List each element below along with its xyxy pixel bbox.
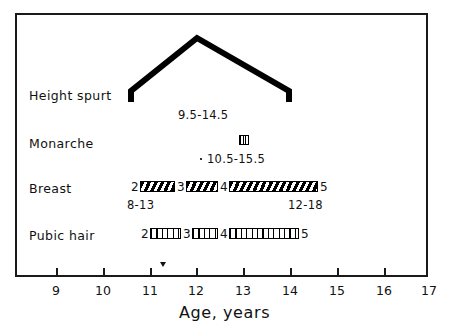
breast-stage-4-label: 4 — [220, 180, 228, 194]
tick-label-11: 11 — [142, 283, 158, 298]
height-spurt-range-text: 9.5-14.5 — [178, 108, 228, 122]
tick-mark-13 — [243, 268, 245, 276]
row-label-breast: Breast — [29, 181, 72, 196]
menarche-marker — [239, 135, 249, 145]
monarche-range-text: 10.5-15.5 — [207, 152, 265, 166]
menarche-range-tick — [200, 158, 202, 160]
axis-pointer-marker — [160, 262, 166, 267]
tick-label-15: 15 — [329, 283, 345, 298]
breast-bar-stage-4-5 — [229, 181, 318, 192]
pubic-hair-stage-2-label: 2 — [141, 227, 149, 241]
tick-label-17: 17 — [421, 283, 437, 298]
breast-left-range-text: 8-13 — [127, 198, 154, 212]
pubic-hair-stage-3-label: 3 — [183, 227, 191, 241]
tick-label-16: 16 — [376, 283, 392, 298]
breast-stage-2-label: 2 — [131, 180, 139, 194]
breast-right-range-text: 12-18 — [288, 198, 323, 212]
pubic-hair-bar-stage-3-4 — [192, 228, 218, 239]
tick-label-12: 12 — [188, 283, 204, 298]
tick-mark-10 — [103, 268, 105, 276]
breast-bar-stage-2-3 — [140, 181, 175, 192]
tick-mark-9 — [56, 268, 58, 276]
breast-stage-5-label: 5 — [320, 180, 328, 194]
tick-mark-15 — [337, 268, 339, 276]
tick-mark-11 — [150, 268, 152, 276]
row-label-pubic-hair: Pubic hair — [29, 228, 95, 243]
tick-label-14: 14 — [282, 283, 298, 298]
puberty-stages-chart: Height spurt 9.5-14.5 Monarche 10.5-15.5… — [0, 0, 449, 336]
tick-label-10: 10 — [95, 283, 111, 298]
breast-stage-3-label: 3 — [177, 180, 185, 194]
pubic-hair-stage-5-label: 5 — [301, 227, 309, 241]
tick-mark-14 — [290, 268, 292, 276]
tick-label-13: 13 — [235, 283, 251, 298]
pubic-hair-bar-stage-2-3 — [150, 228, 181, 239]
pubic-hair-stage-4-label: 4 — [220, 227, 228, 241]
row-label-monarche: Monarche — [29, 136, 94, 151]
breast-bar-stage-3-4 — [186, 181, 218, 192]
axis-title-age: Age, years — [0, 303, 449, 322]
tick-mark-16 — [384, 268, 386, 276]
tick-mark-12 — [196, 268, 198, 276]
tick-label-9: 9 — [52, 283, 60, 298]
pubic-hair-bar-stage-4-5 — [229, 228, 299, 239]
